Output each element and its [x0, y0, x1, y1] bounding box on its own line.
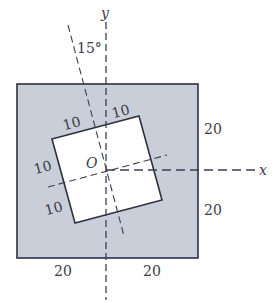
origin-label: O [86, 155, 98, 171]
plate-dim-right-upper: 20 [204, 121, 222, 137]
y-axis-label: y [100, 5, 110, 21]
plate-dim-bottom-right: 20 [143, 263, 161, 279]
x-axis-label: x [259, 162, 267, 178]
plate-dim-right-lower: 20 [204, 202, 222, 218]
plate-dim-bottom-left: 20 [54, 263, 72, 279]
rotation-angle-label: 15° [77, 40, 102, 56]
section-diagram: y x O 15° 10 10 10 10 20 20 20 20 [0, 0, 274, 303]
